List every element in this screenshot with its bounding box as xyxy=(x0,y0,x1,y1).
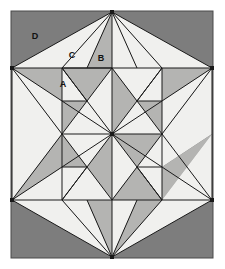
vertex-dot-6 xyxy=(110,132,114,136)
geometric-figure: DCBA xyxy=(0,0,225,269)
vertex-dot-3 xyxy=(10,198,14,202)
label-a: A xyxy=(60,79,67,89)
vertex-dot-0 xyxy=(110,10,114,14)
vertex-dot-2 xyxy=(210,66,214,70)
vertex-dot-4 xyxy=(210,198,214,202)
label-d: D xyxy=(32,31,39,41)
vertex-dot-1 xyxy=(10,66,14,70)
label-c: C xyxy=(69,50,76,60)
vertex-dot-5 xyxy=(110,255,114,259)
figure-canvas: DCBA xyxy=(0,0,225,269)
label-b: B xyxy=(98,53,105,63)
